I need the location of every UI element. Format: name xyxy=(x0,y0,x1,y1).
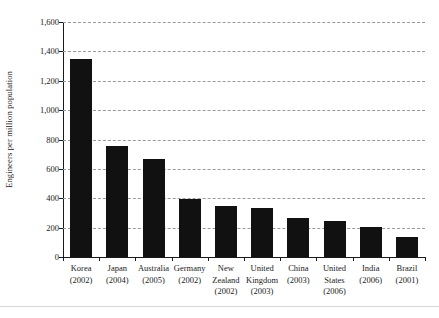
footer-divider xyxy=(0,306,439,307)
bar xyxy=(324,221,346,257)
x-tick-mark xyxy=(280,257,281,261)
y-tick-label: 600 xyxy=(19,165,59,174)
x-tick-label: Australia(2005) xyxy=(133,263,173,286)
x-tick-label-name: Australia xyxy=(133,263,173,275)
y-tick-mark xyxy=(59,81,63,82)
x-tick-mark xyxy=(172,257,173,261)
x-tick-mark xyxy=(135,257,136,261)
y-tick-mark xyxy=(59,140,63,141)
y-tick-mark xyxy=(59,51,63,52)
bar xyxy=(106,146,128,257)
y-tick-mark xyxy=(59,228,63,229)
x-tick-label: United States(2006) xyxy=(314,263,354,298)
x-tick-mark xyxy=(316,257,317,261)
x-tick-label-year: (2002) xyxy=(206,286,246,298)
x-tick-label: New Zealand(2002) xyxy=(206,263,246,298)
y-tick-label: 400 xyxy=(19,194,59,203)
x-tick-label: Korea(2002) xyxy=(61,263,101,286)
y-tick-label: 200 xyxy=(19,224,59,233)
x-tick-label-year: (2005) xyxy=(133,275,173,287)
bar xyxy=(287,218,309,257)
x-tick-label-name: New Zealand xyxy=(206,263,246,286)
bar xyxy=(215,206,237,257)
x-tick-mark xyxy=(244,257,245,261)
bar xyxy=(143,159,165,257)
x-tick-label-year: (2006) xyxy=(314,286,354,298)
x-tick-label: China(2003) xyxy=(278,263,318,286)
bar xyxy=(396,237,418,257)
x-tick-label-year: (2002) xyxy=(61,275,101,287)
y-tick-mark xyxy=(59,110,63,111)
y-tick-label: 1,600 xyxy=(19,18,59,27)
x-tick-mark xyxy=(63,257,64,261)
y-tick-label: 800 xyxy=(19,136,59,145)
x-tick-label-name: Japan xyxy=(97,263,137,275)
y-tick-label: 1,400 xyxy=(19,47,59,56)
x-tick-label-name: Brazil xyxy=(387,263,427,275)
x-tick-mark xyxy=(389,257,390,261)
x-tick-mark xyxy=(353,257,354,261)
y-tick-mark xyxy=(59,169,63,170)
x-tick-label-name: Germany xyxy=(170,263,210,275)
x-tick-mark xyxy=(208,257,209,261)
x-tick-label-year: (2002) xyxy=(170,275,210,287)
x-tick-label: Germany(2002) xyxy=(170,263,210,286)
x-tick-label: Brazil(2001) xyxy=(387,263,427,286)
x-tick-label-year: (2004) xyxy=(97,275,137,287)
bar xyxy=(360,227,382,257)
bar xyxy=(179,199,201,257)
bar-chart-figure: Engineers per million population 1,6001,… xyxy=(0,0,439,318)
x-tick-label-name: India xyxy=(351,263,391,275)
x-tick-label-name: China xyxy=(278,263,318,275)
x-tick-label-year: (2003) xyxy=(242,286,282,298)
x-tick-label-year: (2006) xyxy=(351,275,391,287)
x-tick-mark xyxy=(425,257,426,261)
bar xyxy=(251,208,273,257)
y-tick-label: 1,000 xyxy=(19,106,59,115)
x-tick-label: United Kingdom(2003) xyxy=(242,263,282,298)
y-tick-mark xyxy=(59,257,63,258)
bar xyxy=(70,59,92,257)
y-tick-label: 0 xyxy=(19,253,59,262)
x-tick-label-year: (2003) xyxy=(278,275,318,287)
y-axis-tick-labels: 1,6001,4001,2001,0008006004002000 xyxy=(14,0,59,318)
x-tick-label-name: Korea xyxy=(61,263,101,275)
x-tick-label: Japan(2004) xyxy=(97,263,137,286)
y-tick-label: 1,200 xyxy=(19,77,59,86)
y-tick-mark xyxy=(59,198,63,199)
x-axis-tick-labels: Korea(2002)Japan(2004)Australia(2005)Ger… xyxy=(63,263,426,315)
y-tick-mark xyxy=(59,22,63,23)
x-tick-label-name: United States xyxy=(314,263,354,286)
x-tick-mark xyxy=(99,257,100,261)
x-tick-label-name: United Kingdom xyxy=(242,263,282,286)
x-tick-label-year: (2001) xyxy=(387,275,427,287)
x-tick-label: India(2006) xyxy=(351,263,391,286)
bars-layer xyxy=(63,22,425,257)
y-axis-title-text: Engineers per million population xyxy=(4,71,14,188)
